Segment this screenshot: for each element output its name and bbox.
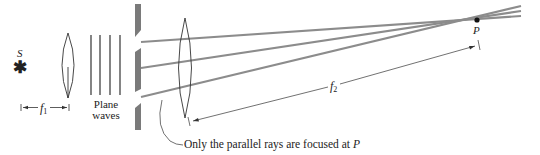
svg-text:f1: f1 [40, 101, 47, 116]
focal-point-label: P [472, 24, 480, 36]
svg-text:Only the parallel rays are foc: Only the parallel rays are focused at P [184, 138, 360, 151]
f1-subscript: 1 [43, 107, 47, 116]
caption-text: Only the parallel rays are focused at [184, 138, 353, 151]
slit-barrier [135, 4, 141, 130]
caption-point: P [352, 138, 360, 150]
source-star-icon: ✱ [13, 58, 27, 77]
optics-diagram: S ✱ f1 Plane waves [0, 0, 540, 155]
svg-text:f2: f2 [330, 79, 337, 94]
f2-dimension: f2 [188, 40, 480, 126]
focal-point-dot [474, 17, 479, 22]
caption-leader-line [160, 100, 183, 145]
plane-waves [91, 35, 120, 95]
collimating-lens [62, 33, 74, 98]
plane-waves-label-line2: waves [92, 109, 120, 121]
f1-dimension: f1 [21, 101, 69, 116]
f2-subscript: 2 [333, 85, 337, 94]
focusing-lens [179, 18, 192, 118]
